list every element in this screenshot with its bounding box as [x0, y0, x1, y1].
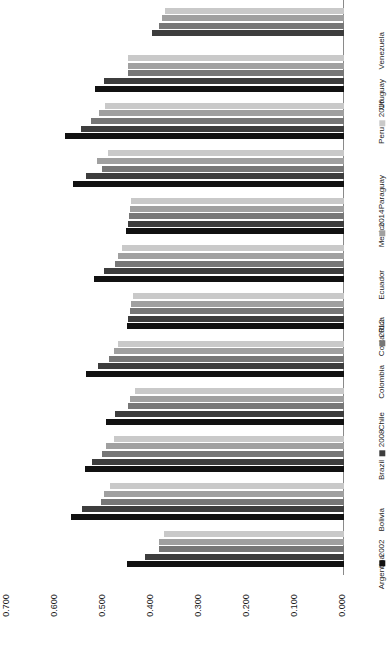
value-axis: 0.0000.1000.2000.3000.4000.5000.6000.700	[0, 575, 384, 647]
bar	[104, 78, 344, 84]
legend-label: 2012	[378, 320, 387, 338]
bar	[101, 499, 344, 505]
legend-label: 2008	[378, 430, 387, 448]
legend-item[interactable]: 2008	[355, 425, 382, 434]
bar	[102, 166, 344, 172]
bar	[118, 253, 344, 259]
category-label: Paraguay	[378, 175, 386, 209]
bar-group	[0, 99, 384, 147]
bar	[104, 268, 344, 274]
bar	[86, 371, 344, 377]
bar	[81, 126, 344, 132]
bar	[104, 491, 344, 497]
category-label: Colombia	[378, 365, 386, 399]
legend-item[interactable]: 2002	[355, 535, 382, 544]
axis-tick-label: 0.000	[338, 594, 348, 617]
category-label: Brazil	[378, 460, 386, 480]
bar	[128, 316, 344, 322]
bar	[159, 23, 344, 29]
category-label: Venezuela	[378, 32, 386, 69]
legend-item[interactable]: 2014	[355, 205, 382, 214]
bar	[65, 133, 344, 139]
legend-swatch-icon	[379, 120, 385, 126]
bar	[71, 514, 344, 520]
bar	[127, 561, 344, 567]
legend-swatch-icon	[379, 340, 385, 346]
legend-label: 2014	[378, 210, 387, 228]
bar	[128, 70, 344, 76]
legend-label: 2002	[378, 540, 387, 558]
bar	[128, 55, 344, 61]
bar	[114, 436, 344, 442]
bar	[162, 15, 344, 21]
bar	[94, 276, 344, 282]
bar	[97, 158, 344, 164]
bar	[122, 245, 344, 251]
bar	[131, 198, 344, 204]
bar	[128, 63, 344, 69]
axis-tick-label: 0.200	[242, 594, 252, 617]
bar-group	[0, 194, 384, 242]
bar	[86, 173, 344, 179]
bar	[127, 323, 344, 329]
bar	[108, 150, 344, 156]
bar	[130, 396, 344, 402]
bar	[85, 466, 344, 472]
bar	[109, 356, 344, 362]
bar	[82, 506, 344, 512]
bar	[92, 459, 344, 465]
bar	[126, 228, 344, 234]
bar-group	[0, 432, 384, 480]
legend-item[interactable]: 2016	[355, 95, 382, 104]
bar	[73, 181, 344, 187]
bar	[152, 30, 344, 36]
bar	[128, 221, 344, 227]
axis-tick-label: 0.600	[50, 594, 60, 617]
bar-group	[0, 337, 384, 385]
category-label: Ecuador	[378, 270, 386, 300]
legend-swatch-icon	[379, 560, 385, 566]
axis-tick-label: 0.500	[98, 594, 108, 617]
axis-tick-label: 0.100	[290, 594, 300, 617]
bar	[115, 261, 344, 267]
legend-item[interactable]: 2012	[355, 315, 382, 324]
axis-tick-label: 0.300	[194, 594, 204, 617]
bar	[159, 546, 344, 552]
category-label: Peru	[378, 127, 386, 144]
bar-group	[0, 52, 384, 100]
bar-group	[0, 527, 384, 575]
bar-group	[0, 147, 384, 195]
bar-group	[0, 242, 384, 290]
bar	[165, 8, 344, 14]
bar	[159, 539, 344, 545]
bar-group	[0, 480, 384, 528]
bar	[135, 388, 344, 394]
legend-swatch-icon	[379, 230, 385, 236]
bar	[99, 110, 344, 116]
bar	[91, 118, 344, 124]
bar	[129, 213, 344, 219]
bar	[95, 86, 344, 92]
bar	[131, 301, 344, 307]
bar	[133, 293, 344, 299]
bar	[102, 451, 344, 457]
axis-tick-label: 0.700	[2, 594, 12, 617]
category-label: Bolivia	[378, 508, 386, 532]
bar	[98, 363, 344, 369]
bar	[105, 103, 344, 109]
bar	[106, 443, 344, 449]
legend-swatch-icon	[379, 450, 385, 456]
bar	[128, 403, 344, 409]
bar	[110, 483, 344, 489]
plot-area: ArgentinaBoliviaBrazilChileColombiaCosta…	[0, 0, 384, 575]
bar-group	[0, 385, 384, 433]
bar	[130, 308, 344, 314]
legend-label: 2016	[378, 100, 387, 118]
bar	[130, 206, 344, 212]
bar	[145, 554, 344, 560]
bar	[114, 348, 344, 354]
bar-group	[0, 4, 384, 52]
bar	[115, 411, 344, 417]
bar	[164, 531, 344, 537]
